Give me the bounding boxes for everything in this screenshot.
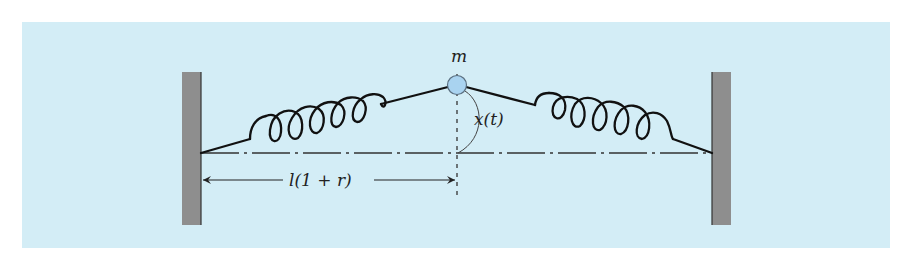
mass xyxy=(448,76,467,95)
displacement-label: x(t) xyxy=(474,109,504,129)
right-wall xyxy=(712,72,731,225)
left-wall xyxy=(182,72,201,225)
spring-mass-diagram: m x(t) l(1 + r) xyxy=(0,0,917,265)
mass-label: m xyxy=(451,46,467,66)
half-length-label: l(1 + r) xyxy=(289,170,352,190)
left-spring xyxy=(201,87,448,153)
